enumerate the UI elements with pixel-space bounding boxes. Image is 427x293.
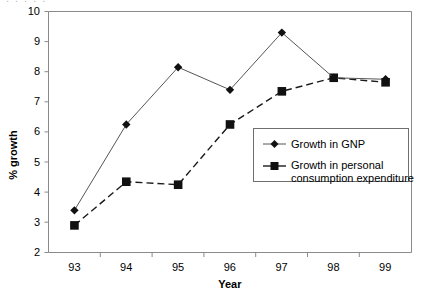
x-axis: 93 94 95 96 97 98 99 Year bbox=[68, 253, 391, 291]
data-point-square bbox=[174, 180, 183, 189]
y-tick-8: 8 bbox=[34, 65, 49, 77]
y-tick-2: 2 bbox=[34, 246, 49, 258]
y-tick-label: 6 bbox=[34, 125, 40, 137]
y-tick-label: 5 bbox=[34, 156, 40, 168]
y-tick-3: 3 bbox=[34, 216, 49, 228]
y-tick-label: 7 bbox=[34, 95, 40, 107]
y-tick-4: 4 bbox=[34, 186, 49, 198]
chart-container: ..... 10 9 8 7 bbox=[0, 0, 427, 293]
y-axis-title: % growth bbox=[7, 130, 19, 180]
y-tick-7: 7 bbox=[34, 95, 49, 107]
y-tick-label: 3 bbox=[34, 216, 40, 228]
x-tick-label: 95 bbox=[172, 261, 184, 273]
data-point-diamond bbox=[70, 206, 78, 214]
x-tick-label: 94 bbox=[120, 261, 132, 273]
y-tick-label: 4 bbox=[34, 186, 40, 198]
y-tick-9: 9 bbox=[34, 35, 49, 47]
y-tick-label: 9 bbox=[34, 35, 40, 47]
y-tick-label: 10 bbox=[28, 5, 40, 17]
y-tick-6: 6 bbox=[34, 125, 49, 137]
y-tick-10: 10 bbox=[28, 5, 49, 17]
y-tick-label: 8 bbox=[34, 65, 40, 77]
legend-label: Growth in personal bbox=[291, 159, 383, 171]
line-chart: 10 9 8 7 6 5 4 bbox=[0, 0, 427, 293]
data-point-square bbox=[278, 87, 287, 96]
data-point-square bbox=[226, 120, 235, 129]
y-tick-label: 2 bbox=[34, 246, 40, 258]
data-point-square bbox=[122, 177, 131, 186]
x-tick-label: 96 bbox=[224, 261, 236, 273]
legend-label: consumption expenditure bbox=[291, 172, 414, 184]
y-tick-5: 5 bbox=[34, 156, 49, 168]
x-tick-label: 93 bbox=[68, 261, 80, 273]
x-tick-label: 98 bbox=[327, 261, 339, 273]
legend-label: Growth in GNP bbox=[291, 138, 365, 150]
x-tick-label: 99 bbox=[379, 261, 391, 273]
x-axis-title: Year bbox=[218, 278, 242, 290]
y-axis: 10 9 8 7 6 5 4 bbox=[7, 5, 49, 258]
x-tick-label: 97 bbox=[275, 261, 287, 273]
square-marker-icon bbox=[271, 162, 279, 170]
legend: Growth in GNP Growth in personal consump… bbox=[254, 129, 414, 185]
data-point-square bbox=[70, 221, 79, 230]
